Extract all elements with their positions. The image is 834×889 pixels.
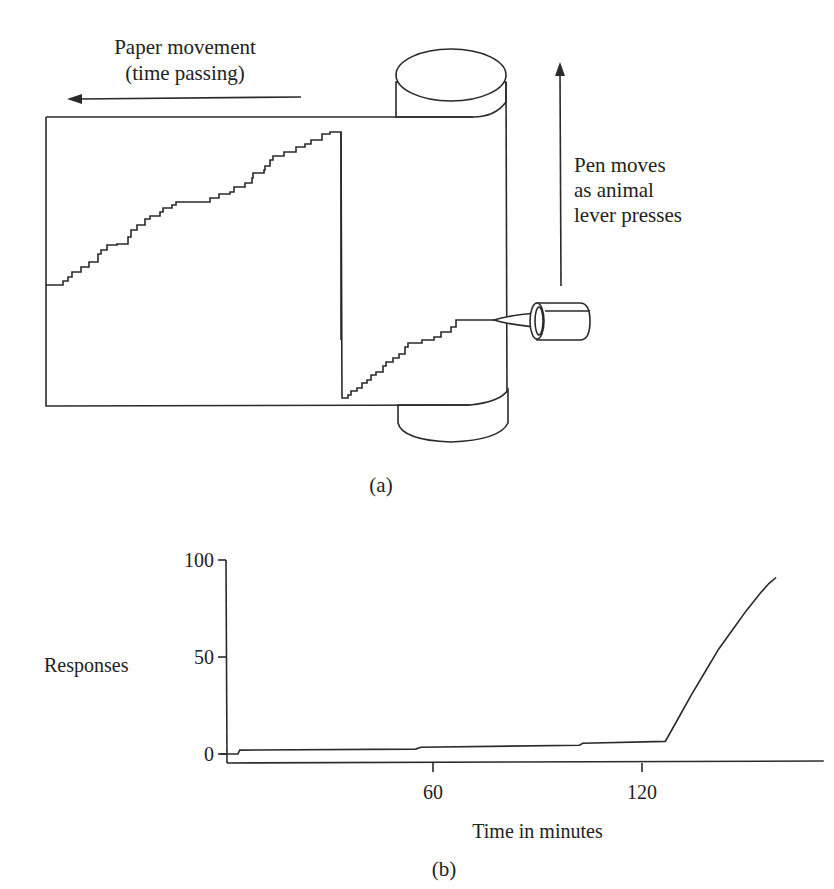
- as-animal-label: as animal: [574, 178, 654, 202]
- x-axis-label: Time in minutes: [472, 820, 603, 842]
- left-arrow-icon: [67, 94, 301, 104]
- recorded-trace-old: [46, 132, 341, 340]
- x-ticks: 60120: [423, 763, 657, 803]
- cumulative-recorder-diagram: Paper movement (time passing): [46, 35, 682, 497]
- y-tick-label-0: 0: [204, 743, 214, 765]
- cumulative-record-chart: 050100 60120 Responses Time in minutes (…: [44, 549, 824, 881]
- figure: Paper movement (time passing): [0, 0, 834, 889]
- x-tick-label-60: 60: [423, 781, 443, 803]
- paper-movement-label: Paper movement: [114, 35, 256, 59]
- y-axis-label: Responses: [44, 654, 129, 677]
- y-tick-label-50: 50: [194, 646, 214, 668]
- pen-moves-label: Pen moves: [574, 153, 666, 177]
- caption-a: (a): [369, 473, 392, 497]
- up-arrow-icon: [555, 62, 565, 286]
- y-ticks: 050100: [184, 549, 226, 765]
- recorded-trace-current: [341, 132, 495, 398]
- time-passing-label: (time passing): [125, 61, 245, 85]
- x-axis: [227, 761, 824, 763]
- paper-sheet: [46, 117, 473, 406]
- x-tick-label-120: 120: [627, 781, 657, 803]
- pen-icon: [494, 303, 590, 340]
- caption-b: (b): [432, 857, 457, 881]
- series-line-cumulative-responses: [221, 578, 777, 755]
- y-axis: [226, 560, 227, 763]
- y-tick-label-100: 100: [184, 549, 214, 571]
- drum-icon: [396, 49, 508, 442]
- lever-presses-label: lever presses: [574, 203, 682, 227]
